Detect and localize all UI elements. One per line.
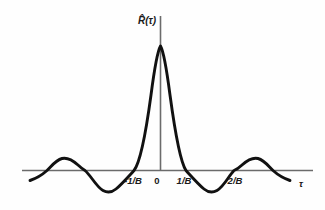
y-axis-label: R̂(τ) xyxy=(138,14,157,26)
x-tick-label-two-over-b: 2/B xyxy=(227,175,243,186)
x-tick-label-neg-one-over-b: -1/B xyxy=(124,175,142,186)
x-axis-label: τ xyxy=(299,178,304,189)
x-tick-label-one-over-b: 1/B xyxy=(177,175,192,186)
x-tick-label-zero: 0 xyxy=(154,175,159,186)
figure-canvas: R̂(τ) -1/B 0 1/B 2/B τ xyxy=(0,0,325,210)
sinc-autocorrelation-plot: R̂(τ) -1/B 0 1/B 2/B τ xyxy=(0,0,325,210)
